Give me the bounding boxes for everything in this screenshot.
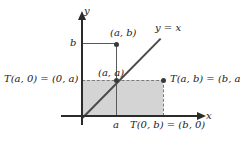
x-axis-label: x	[206, 111, 212, 121]
point-label-aa: (a, a)	[98, 68, 124, 78]
point-marker-aa	[114, 78, 119, 83]
point-label-ab: (a, b)	[110, 28, 137, 38]
y-tick-label-b: b	[70, 38, 76, 48]
y-axis	[81, 18, 83, 125]
x-tick-label-a: a	[113, 120, 119, 130]
point-marker-ab	[114, 42, 119, 47]
y-axis-label: y	[84, 6, 90, 16]
dashed-line-horizontal	[82, 80, 164, 81]
mapping-label-left: T(a, 0) = (0, a)	[4, 74, 78, 84]
mapping-label-right: T(a, b) = (b, a)	[170, 74, 240, 84]
mapping-label-bottom: T(0, b) = (b, 0)	[130, 120, 205, 130]
construction-line-b-horizontal	[82, 43, 117, 44]
shaded-region	[82, 80, 163, 116]
x-axis	[61, 115, 198, 117]
line-equation-label: y = x	[155, 23, 181, 33]
dashed-line-vertical	[163, 80, 164, 116]
math-figure: y x b a (a, b) (a, a) y = x T(a, 0) = (0…	[0, 0, 240, 147]
point-marker-ba	[161, 78, 166, 83]
